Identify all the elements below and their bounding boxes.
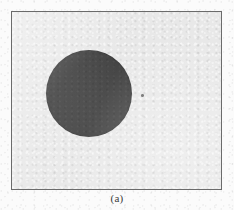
dark-circle-shape [46, 50, 132, 137]
speck-artifact-icon [141, 94, 145, 98]
figure-caption: (a) [0, 192, 234, 205]
image-frame [11, 11, 222, 190]
figure-page: (a) [0, 0, 234, 210]
